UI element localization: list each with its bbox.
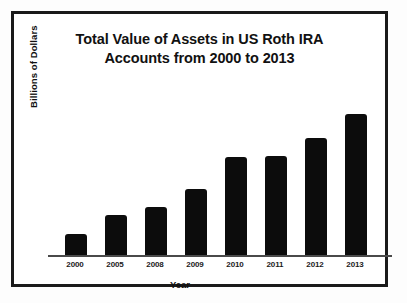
x-tick-2000: 2000 (55, 260, 95, 269)
x-axis-tick-labels: 20002005200820092010201120122013 (55, 260, 391, 274)
x-tick-2009: 2009 (175, 260, 215, 269)
bar-2013 (345, 114, 367, 256)
x-tick-2010: 2010 (215, 260, 255, 269)
chart-title-line-2: Accounts from 2000 to 2013 (28, 49, 371, 68)
bar-2008 (145, 207, 167, 256)
figure-frame: Total Value of Assets in US Roth IRA Acc… (11, 11, 388, 287)
x-tick-2008: 2008 (135, 260, 175, 269)
bar-2012 (305, 138, 327, 256)
bar-2011 (265, 156, 287, 256)
x-tick-2012: 2012 (295, 260, 335, 269)
bar-2005 (105, 215, 127, 256)
chart-title-line-1: Total Value of Assets in US Roth IRA (28, 30, 371, 49)
bar-2009 (185, 189, 207, 256)
x-tick-2011: 2011 (255, 260, 295, 269)
x-axis-label: Year (55, 279, 305, 290)
chart-page: Total Value of Assets in US Roth IRA Acc… (0, 0, 407, 303)
plot-area (55, 96, 391, 256)
bar-series (55, 96, 391, 256)
chart-title: Total Value of Assets in US Roth IRA Acc… (14, 30, 385, 69)
bar-2000 (65, 234, 87, 256)
x-tick-2013: 2013 (335, 260, 375, 269)
y-axis-label: Billions of Dollars (28, 0, 44, 108)
x-tick-2005: 2005 (95, 260, 135, 269)
x-axis-line (48, 255, 392, 257)
bar-2010 (225, 157, 247, 256)
